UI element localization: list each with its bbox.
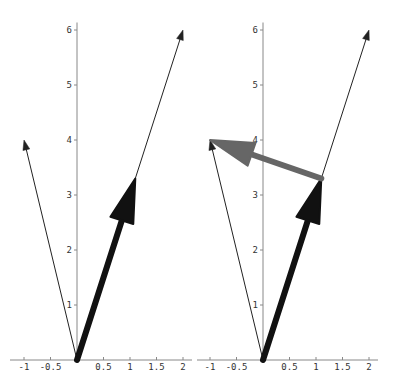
x-tick-label: -1 (205, 362, 216, 372)
y-tick-label: 2 (253, 245, 258, 255)
thick-vector-shaft (263, 218, 308, 360)
figure: -1-0.50.511.52123456 -1-0.50.511.5212345… (0, 0, 395, 388)
arrowhead-icon (23, 140, 30, 151)
x-tick-label: 2 (180, 362, 185, 372)
thick-vector (263, 179, 321, 361)
y-tick-label: 6 (253, 25, 258, 35)
y-tick-label: 3 (67, 190, 72, 200)
difference-vector (210, 140, 321, 179)
y-tick-label: 1 (253, 300, 258, 310)
difference-vector-shaft (250, 154, 322, 179)
x-tick-label: 0.5 (95, 362, 111, 372)
x-tick-label: 1 (127, 362, 132, 372)
x-tick-label: 1 (313, 362, 318, 372)
arrowhead-icon (210, 140, 256, 166)
x-tick-label: -1 (19, 362, 30, 372)
x-tick-label: 0.5 (281, 362, 297, 372)
y-tick-label: 4 (67, 135, 72, 145)
x-tick-label: -0.5 (40, 362, 62, 372)
x-tick-label: -0.5 (226, 362, 248, 372)
y-tick-label: 6 (67, 25, 72, 35)
x-tick-label: 1.5 (148, 362, 164, 372)
y-tick-label: 5 (253, 80, 258, 90)
arrowhead-icon (110, 179, 135, 225)
arrowhead-icon (177, 30, 184, 41)
arrowhead-icon (363, 30, 370, 41)
thick-vector (77, 179, 135, 361)
y-tick-label: 5 (67, 80, 72, 90)
thick-vector-shaft (77, 218, 122, 360)
arrowhead-icon (296, 179, 321, 225)
right-plot: -1-0.50.511.52123456 (197, 23, 378, 373)
y-tick-label: 1 (67, 300, 72, 310)
left-plot: -1-0.50.511.52123456 (10, 23, 192, 373)
y-tick-label: 2 (67, 245, 72, 255)
x-tick-label: 1.5 (334, 362, 350, 372)
y-tick-label: 3 (253, 190, 258, 200)
x-tick-label: 2 (366, 362, 371, 372)
